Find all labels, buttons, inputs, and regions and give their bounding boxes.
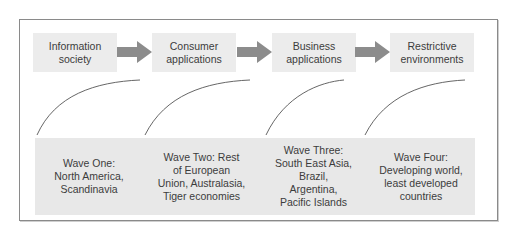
stage-restrictive-environments: Restrictive environments [390, 33, 474, 72]
right-arrow-icon [355, 41, 390, 63]
stage-consumer-applications: Consumer applications [152, 33, 236, 72]
wave-one: Wave One: North America, Scandinavia [35, 138, 143, 215]
wave-two: Wave Two: Rest of European Union, Austra… [143, 138, 260, 215]
stage-business-applications: Business applications [272, 33, 356, 72]
right-arrow-icon [117, 41, 152, 63]
wave-four: Wave Four: Developing world, least devel… [367, 138, 475, 215]
right-arrow-icon [237, 41, 272, 63]
wave-three: Wave Three: South East Asia, Brazil, Arg… [260, 138, 367, 215]
stage-information-society: Information society [33, 33, 117, 72]
